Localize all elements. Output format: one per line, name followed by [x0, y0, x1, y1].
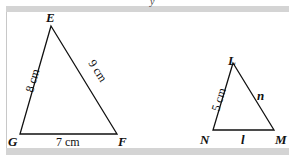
vertex-g-label: G: [8, 134, 18, 149]
side-nm-label: l: [241, 132, 245, 147]
vertex-e-label: E: [45, 10, 55, 25]
side-nl-label: 5 cm: [208, 86, 229, 113]
side-lm-label: n: [257, 88, 264, 103]
side-ge-label: 8 cm: [22, 67, 42, 94]
vertex-m-label: M: [274, 132, 287, 147]
triangle-lmn: L N M 5 cm n l: [199, 53, 287, 147]
triangles-diagram: E G F 8 cm 9 cm 7 cm L N M 5 cm n l: [0, 0, 289, 157]
triangle-efg: E G F 8 cm 9 cm 7 cm: [8, 10, 127, 149]
side-ef-label: 9 cm: [85, 57, 110, 85]
vertex-l-label: L: [227, 53, 236, 68]
vertex-n-label: N: [199, 132, 210, 147]
side-gf-label: 7 cm: [56, 135, 80, 149]
vertex-f-label: F: [117, 134, 127, 149]
